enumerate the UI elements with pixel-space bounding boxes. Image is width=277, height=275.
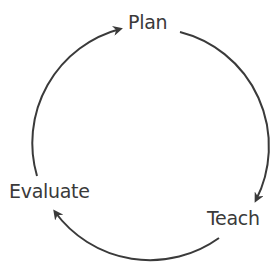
node-plan: Plan <box>128 13 167 32</box>
arrow-evaluate-to-plan <box>32 29 120 176</box>
arrow-teach-to-evaluate <box>55 212 219 260</box>
cycle-diagram: Plan Teach Evaluate <box>0 0 277 275</box>
node-teach: Teach <box>207 209 260 228</box>
cycle-arrows <box>0 0 277 275</box>
node-evaluate: Evaluate <box>9 182 90 201</box>
arrow-plan-to-teach <box>180 32 269 200</box>
